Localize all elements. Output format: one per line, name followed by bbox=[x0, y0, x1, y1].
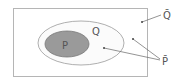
set-p-label: P bbox=[62, 40, 68, 51]
pointer-dot bbox=[103, 47, 105, 49]
pointer-dot bbox=[132, 38, 134, 40]
q-complement-label: Q̄ bbox=[163, 9, 171, 21]
p-complement-label: P̄ bbox=[162, 55, 168, 67]
set-q-label: Q bbox=[92, 26, 100, 37]
venn-diagram: P Q Q̄ P̄ bbox=[0, 0, 184, 80]
pointer-dot bbox=[141, 21, 143, 23]
